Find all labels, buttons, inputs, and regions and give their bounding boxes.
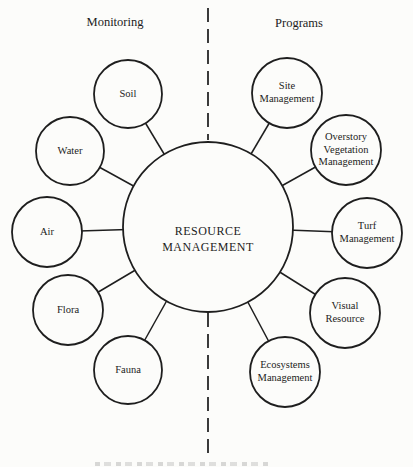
soil-label: Soil xyxy=(120,88,137,101)
center-circle-label: RESOURCE MANAGEMENT xyxy=(162,224,254,255)
programs-column-header: Programs xyxy=(275,16,323,31)
monitoring-column-header: Monitoring xyxy=(87,15,144,30)
overstory-vegetation-management-label: Overstory Vegetation Management xyxy=(319,131,374,169)
site-management-label: Site Management xyxy=(260,80,315,105)
flora-label: Flora xyxy=(57,304,79,317)
cutoff-caption-fragment xyxy=(95,462,270,466)
ecosystems-management-label: Ecosystems Management xyxy=(258,359,313,384)
fauna-label: Fauna xyxy=(115,364,141,377)
air-label: Air xyxy=(40,226,54,239)
visual-resource-label: Visual Resource xyxy=(325,300,364,325)
turf-management-label: Turf Management xyxy=(340,220,395,245)
water-label: Water xyxy=(58,145,83,158)
resource-management-diagram: Monitoring Programs RESOURCE MANAGEMENT … xyxy=(0,0,413,467)
